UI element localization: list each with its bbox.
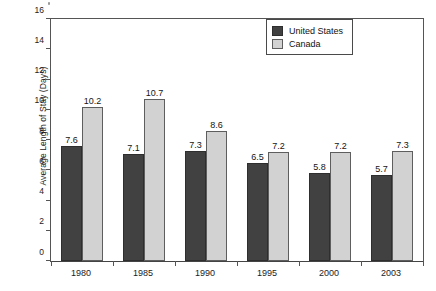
y-axis-tick-label: 6	[39, 156, 44, 166]
bar-united-states-1995: 6.5	[247, 163, 268, 261]
bar-canada-1990: 8.6	[206, 131, 227, 261]
x-axis-tick	[237, 261, 238, 266]
x-axis-label-1990: 1990	[195, 268, 215, 278]
legend-item-canada: Canada	[272, 37, 343, 50]
y-axis-tick	[46, 169, 51, 170]
bar-canada-2000: 7.2	[330, 152, 351, 261]
bar-united-states-1990: 7.3	[185, 151, 206, 261]
bar-value-label: 7.3	[396, 141, 409, 150]
y-axis-tick-label: 10	[35, 95, 44, 105]
bar-value-label: 7.1	[127, 144, 140, 153]
y-axis-tick-label: 8	[39, 126, 44, 136]
y-axis-tick	[46, 230, 51, 231]
bar-value-label: 5.8	[313, 163, 326, 172]
legend-swatch-united-states	[272, 26, 283, 36]
x-axis-label-1985: 1985	[133, 268, 153, 278]
x-axis-tick	[175, 261, 176, 266]
bar-value-label: 5.7	[375, 165, 388, 174]
x-axis-tick	[51, 261, 52, 266]
x-axis-label-1995: 1995	[257, 268, 277, 278]
y-axis-tick	[46, 139, 51, 140]
bar-value-label: 8.6	[210, 121, 223, 130]
bar-united-states-2000: 5.8	[309, 173, 330, 261]
y-axis-tick	[46, 79, 51, 80]
scan-artifact-speck	[48, 2, 50, 5]
bar-united-states-1980: 7.6	[61, 146, 82, 261]
y-axis-tick-label: 4	[39, 186, 44, 196]
bar-united-states-1985: 7.1	[123, 154, 144, 261]
bar-canada-1980: 10.2	[82, 107, 103, 261]
y-axis-tick	[46, 48, 51, 49]
bar-chart-figure: Average Length of Stay (Days) 0246810121…	[0, 0, 436, 291]
y-axis-tick-label: 14	[35, 35, 44, 45]
x-axis-tick	[299, 261, 300, 266]
y-axis-tick	[46, 200, 51, 201]
bar-value-label: 10.7	[146, 89, 164, 98]
y-axis-tick	[46, 18, 51, 19]
y-axis-tick-label: 16	[35, 5, 44, 15]
y-axis-tick-label: 12	[35, 65, 44, 75]
bar-value-label: 6.5	[251, 153, 264, 162]
legend-label-canada: Canada	[289, 39, 321, 49]
legend-label-united-states: United States	[289, 26, 343, 36]
bar-value-label: 7.2	[272, 142, 285, 151]
bar-canada-1995: 7.2	[268, 152, 289, 261]
bar-united-states-2003: 5.7	[371, 175, 392, 261]
bar-value-label: 7.6	[65, 136, 78, 145]
bar-canada-2003: 7.3	[392, 151, 413, 261]
bar-value-label: 7.3	[189, 141, 202, 150]
y-axis-tick	[46, 109, 51, 110]
bar-value-label: 7.2	[334, 142, 347, 151]
bar-value-label: 10.2	[84, 97, 102, 106]
bar-canada-1985: 10.7	[144, 99, 165, 261]
y-axis-tick-label: 0	[39, 247, 44, 257]
x-axis-label-2003: 2003	[381, 268, 401, 278]
plot-area: 0246810121416 7.610.27.110.77.38.66.57.2…	[50, 18, 424, 262]
chart-legend: United States Canada	[266, 19, 353, 55]
x-axis-label-2000: 2000	[319, 268, 339, 278]
x-axis-tick	[113, 261, 114, 266]
x-axis-tick	[361, 261, 362, 266]
legend-item-united-states: United States	[272, 24, 343, 37]
x-axis-tick	[423, 261, 424, 266]
y-axis-tick-label: 2	[39, 216, 44, 226]
x-axis-label-1980: 1980	[71, 268, 91, 278]
legend-swatch-canada	[272, 39, 283, 49]
